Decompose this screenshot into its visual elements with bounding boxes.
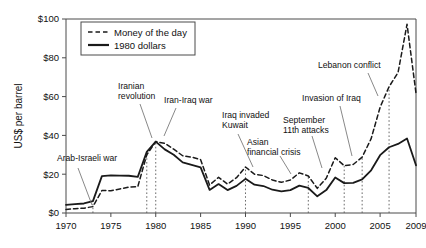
x-axis-tick-label: 2009 bbox=[405, 220, 426, 231]
annotation-leader-line bbox=[340, 106, 352, 156]
chart-canvas: $0$20$40$60$80$1001970197519801985199019… bbox=[0, 0, 426, 248]
x-axis-tick-label: 1985 bbox=[190, 220, 211, 231]
x-axis-tick-label: 2000 bbox=[325, 220, 346, 231]
legend-label: Money of the day bbox=[114, 27, 187, 38]
x-axis-tick-label: 1990 bbox=[235, 220, 256, 231]
annotation-label: September bbox=[283, 115, 325, 125]
y-axis-tick-label: $0 bbox=[48, 207, 59, 218]
y-axis-tick-label: $40 bbox=[43, 130, 59, 141]
x-axis-tick-label: 1970 bbox=[55, 220, 76, 231]
y-axis-tick-label: $60 bbox=[43, 91, 59, 102]
annotation-leader-line bbox=[312, 136, 322, 168]
annotation-label: revolution bbox=[118, 91, 155, 101]
y-axis-tick-label: $100 bbox=[38, 13, 59, 24]
annotation-leader-line bbox=[140, 104, 152, 138]
x-axis-tick-label: 1980 bbox=[145, 220, 166, 231]
annotation-label: 11th attacks bbox=[283, 125, 329, 135]
annotation-label: Kuwait bbox=[222, 120, 248, 130]
annotation-label: Asian bbox=[247, 137, 269, 147]
legend-label: 1980 dollars bbox=[114, 40, 166, 51]
annotation-label: financial crisis bbox=[247, 147, 301, 157]
annotation-leader-line bbox=[368, 73, 378, 96]
annotation-label: Iraq invaded bbox=[222, 110, 270, 120]
y-axis-tick-label: $80 bbox=[43, 52, 59, 63]
y-axis-tick-label: $20 bbox=[43, 169, 59, 180]
annotation-label: Arab-Israeli war bbox=[57, 153, 117, 163]
annotation-label: Iranian bbox=[118, 81, 144, 91]
annotation-leader-line bbox=[78, 168, 92, 205]
x-axis-tick-label: 1995 bbox=[280, 220, 301, 231]
x-axis-tick-label: 1975 bbox=[100, 220, 121, 231]
annotation-label: Lebanon conflict bbox=[318, 60, 381, 70]
annotation-label: Invasion of Iraq bbox=[302, 93, 361, 103]
annotation-label: Iran-Iraq war bbox=[164, 95, 213, 105]
annotation-leader-line bbox=[164, 108, 176, 136]
annotation-leader-line bbox=[280, 156, 291, 174]
oil-price-chart: $0$20$40$60$80$1001970197519801985199019… bbox=[0, 0, 426, 248]
y-axis-title: US$ per barrel bbox=[13, 83, 24, 148]
x-axis-tick-label: 2005 bbox=[370, 220, 391, 231]
